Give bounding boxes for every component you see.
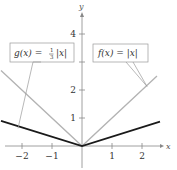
chart-container: −2−112124 g(x) = 13|x|f(x) = |x| x y (0, 0, 177, 170)
callout-f-pointer (126, 62, 147, 86)
callout-g-fraction-num: 1 (50, 47, 54, 53)
chart-svg: −2−112124 g(x) = 13|x|f(x) = |x| x y (0, 0, 177, 170)
x-tick-label: −2 (15, 151, 28, 161)
callouts: g(x) = 13|x|f(x) = |x| (10, 43, 148, 128)
y-tick-label: 1 (70, 113, 76, 123)
x-tick-label: 2 (139, 151, 145, 161)
series-lines (1, 70, 160, 146)
y-tick-label: 4 (70, 29, 76, 39)
callout-f-text: f(x) = |x| (97, 48, 138, 59)
x-tick-label: −1 (45, 151, 58, 161)
series-f-line (1, 70, 157, 146)
x-tick-label: 1 (109, 151, 115, 161)
callout-g-abs: |x| (56, 48, 67, 59)
x-axis-label: x (166, 142, 171, 151)
y-axis-label: y (78, 2, 84, 11)
x-axis-arrow-icon (160, 144, 164, 148)
callout-g-pointer (18, 62, 41, 128)
y-axis-arrow-icon (80, 12, 84, 17)
callout-g-fraction-den: 3 (50, 54, 54, 60)
y-tick-label: 2 (70, 85, 76, 95)
callout-g-text: g(x) = (14, 48, 42, 58)
series-g-line (1, 121, 160, 146)
